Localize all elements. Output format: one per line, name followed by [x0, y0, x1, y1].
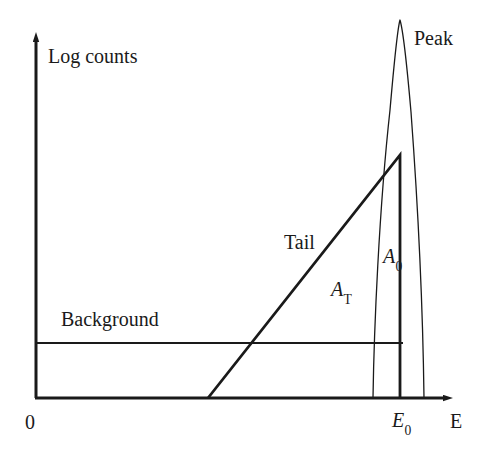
- area-tail-label: AT: [331, 279, 352, 304]
- area-peak-subscript: 0: [395, 259, 402, 274]
- peak-curve: [373, 20, 424, 398]
- background-label: Background: [61, 309, 159, 329]
- energy-subscript: 0: [404, 423, 411, 438]
- area-tail-subscript: T: [343, 292, 351, 307]
- y-axis-label: Log counts: [48, 46, 137, 66]
- energy-e0-tick-label: E0: [392, 410, 411, 435]
- figure-canvas: [0, 0, 485, 452]
- tail-line: [208, 155, 400, 398]
- origin-tick-label: 0: [25, 412, 35, 432]
- area-peak-label: A0: [383, 246, 402, 271]
- energy-symbol: E: [392, 409, 404, 431]
- area-tail-symbol: A: [331, 278, 343, 300]
- tail-label: Tail: [284, 232, 315, 252]
- area-peak-symbol: A: [383, 245, 395, 267]
- spectrum-figure: Log counts Peak Tail A0 AT Background 0 …: [0, 0, 485, 452]
- x-axis-label: E: [450, 411, 462, 431]
- peak-label: Peak: [414, 28, 453, 48]
